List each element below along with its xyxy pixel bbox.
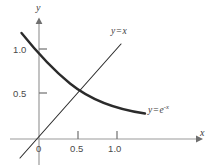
y-tick-label-1.0: 1.0	[13, 44, 27, 55]
x-axis-label: x	[200, 127, 204, 138]
y-axis-arrow-icon	[36, 18, 43, 25]
exponential-decay-curve	[22, 33, 146, 114]
plot-canvas	[0, 0, 211, 168]
annotation-exp-equals: =	[152, 105, 159, 115]
identity-line-y-equals-x	[20, 44, 121, 158]
y-axis-label: y	[36, 2, 40, 13]
y-tick-label-0.5: 0.5	[13, 88, 27, 99]
annotation-y-equals-exp-neg-x: y=e-x	[148, 105, 169, 115]
annotation-exp-exponent: -x	[164, 103, 169, 110]
exponential-decay-figure: 1.0 0.5 0 0.5 1.0 y x y=x y=e-x	[0, 0, 211, 168]
x-tick-label-1.0: 1.0	[108, 143, 122, 154]
x-tick-label-0: 0	[36, 143, 41, 154]
annotation-y-equals-x: y=x	[111, 26, 127, 36]
annotation-line-equals: =	[115, 26, 122, 36]
annotation-line-var-x: x	[123, 26, 127, 36]
x-tick-label-0.5: 0.5	[70, 143, 84, 154]
